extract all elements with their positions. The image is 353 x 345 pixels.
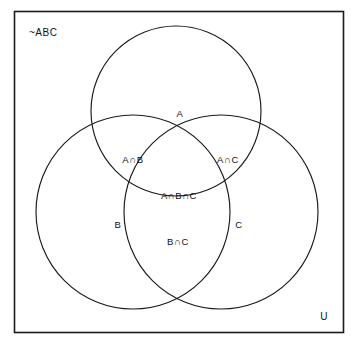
- region-label-b-intersect-c: B∩C: [167, 236, 189, 247]
- region-label-b: B: [115, 219, 122, 230]
- region-label-a-intersect-c: A∩C: [217, 154, 239, 165]
- universe-frame: [15, 12, 344, 333]
- region-label-a-intersect-b-intersect-c: A∩B∩C: [161, 190, 197, 201]
- region-label-a-intersect-b: A∩B: [122, 154, 143, 165]
- venn-diagram-figure: ~ABC A A∩B A∩C A∩B∩C B C B∩C U: [0, 0, 353, 345]
- universe-label: U: [320, 311, 328, 322]
- complement-label: ~ABC: [29, 27, 57, 38]
- region-label-c: C: [235, 219, 242, 230]
- region-label-a: A: [177, 108, 184, 119]
- venn-diagram-canvas: ~ABC A A∩B A∩C A∩B∩C B C B∩C U: [0, 0, 353, 345]
